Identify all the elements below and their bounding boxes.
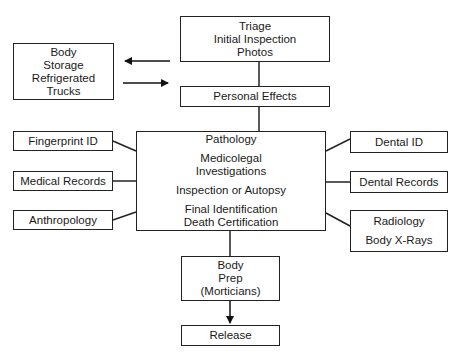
dental-records-box: Dental Records xyxy=(350,171,448,193)
fingerprint-id-label: Fingerprint ID xyxy=(28,135,98,148)
body-xrays-label: Body X-Rays xyxy=(365,234,432,247)
center-process-box: Pathology Medicolegal Investigations Ins… xyxy=(136,131,326,231)
radiology-box: Radiology Body X-Rays xyxy=(350,210,448,252)
refrigerated-label: Refrigerated xyxy=(32,72,95,85)
radiology-label: Radiology xyxy=(373,215,424,228)
triage-label: Triage xyxy=(239,20,271,33)
prep-label: Prep xyxy=(218,272,242,285)
release-box: Release xyxy=(181,325,280,346)
release-label: Release xyxy=(209,329,251,342)
body-prep-box: Body Prep (Morticians) xyxy=(181,256,280,301)
storage-label: Storage xyxy=(43,59,83,72)
fingerprint-id-box: Fingerprint ID xyxy=(13,131,113,151)
medicolegal-label: Medicolegal xyxy=(200,152,261,165)
anthropology-label: Anthropology xyxy=(29,214,97,227)
morticians-label: (Morticians) xyxy=(200,285,260,298)
inspection-autopsy-label: Inspection or Autopsy xyxy=(176,184,286,197)
body-prep-body-label: Body xyxy=(217,259,243,272)
triage-box: Triage Initial Inspection Photos xyxy=(180,16,330,62)
personal-effects-label: Personal Effects xyxy=(213,90,297,103)
investigations-label: Investigations xyxy=(196,165,266,178)
dental-records-label: Dental Records xyxy=(359,176,438,189)
body-label: Body xyxy=(50,46,76,59)
dental-id-box: Dental ID xyxy=(350,131,448,153)
final-identification-label: Final Identification xyxy=(185,203,278,216)
photos-label: Photos xyxy=(237,46,273,59)
medical-records-label: Medical Records xyxy=(20,175,106,188)
medical-records-box: Medical Records xyxy=(13,171,113,191)
death-certification-label: Death Certification xyxy=(184,216,279,229)
dental-id-label: Dental ID xyxy=(375,136,423,149)
body-storage-box: Body Storage Refrigerated Trucks xyxy=(13,43,114,100)
trucks-label: Trucks xyxy=(46,85,80,98)
initial-inspection-label: Initial Inspection xyxy=(214,33,296,46)
anthropology-box: Anthropology xyxy=(13,210,113,230)
pathology-label: Pathology xyxy=(205,133,256,146)
personal-effects-box: Personal Effects xyxy=(180,86,330,107)
